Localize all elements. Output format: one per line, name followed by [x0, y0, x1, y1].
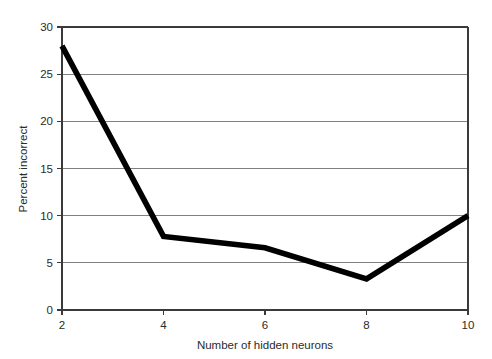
line-chart: 051015202530 246810 Number of hidden neu…	[0, 0, 492, 359]
y-axis-title: Percent incorrect	[17, 125, 29, 213]
x-tick-label: 2	[59, 319, 65, 331]
x-axis-title: Number of hidden neurons	[197, 339, 333, 351]
y-tick-label: 15	[40, 163, 53, 175]
y-tick-label: 25	[40, 68, 53, 80]
x-tick-label: 8	[363, 319, 369, 331]
x-tick-label: 6	[262, 319, 268, 331]
x-axis-ticks: 246810	[59, 310, 475, 331]
y-axis-ticks: 051015202530	[40, 21, 62, 316]
x-tick-label: 10	[462, 319, 475, 331]
chart-container: 051015202530 246810 Number of hidden neu…	[0, 0, 492, 359]
y-tick-label: 30	[40, 21, 53, 33]
y-tick-label: 20	[40, 115, 53, 127]
y-tick-label: 5	[47, 257, 53, 269]
y-tick-label: 0	[47, 304, 53, 316]
x-tick-label: 4	[160, 319, 167, 331]
y-tick-label: 10	[40, 210, 53, 222]
